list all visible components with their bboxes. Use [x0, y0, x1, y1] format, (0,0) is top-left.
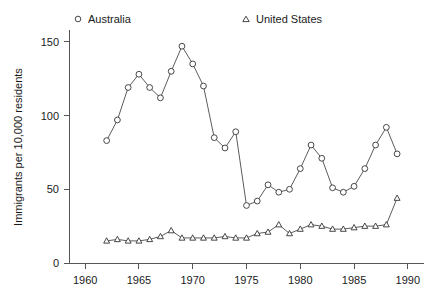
- data-point: [190, 61, 196, 67]
- axes: [69, 30, 424, 263]
- data-point: [104, 138, 110, 144]
- data-point: [168, 227, 174, 232]
- data-point: [244, 203, 250, 209]
- data-point: [276, 189, 282, 195]
- chart-container: Australia United States 050100150 196019…: [0, 0, 433, 295]
- y-tick-label: 100: [41, 110, 59, 122]
- data-point: [125, 85, 131, 91]
- data-point: [115, 117, 121, 123]
- data-point: [254, 198, 260, 204]
- y-tick-label: 150: [41, 36, 59, 48]
- x-tick-label: 1980: [288, 274, 312, 286]
- x-tick-label: 1960: [73, 274, 97, 286]
- data-point: [351, 183, 357, 189]
- chart-canvas: Australia United States 050100150 196019…: [0, 0, 433, 295]
- data-point: [276, 222, 282, 227]
- series-united-states: [104, 195, 400, 243]
- data-point: [158, 95, 164, 101]
- data-point: [114, 236, 120, 241]
- data-point: [157, 233, 163, 238]
- data-point: [308, 222, 314, 227]
- data-point: [179, 43, 185, 49]
- x-tick-label: 1990: [396, 274, 420, 286]
- y-axis-title: Immigrants per 10,000 residents: [12, 68, 24, 226]
- legend-marker-united-states-icon: [243, 16, 249, 21]
- x-tick-label: 1970: [180, 274, 204, 286]
- y-tick-label: 50: [47, 183, 59, 195]
- series-line: [107, 46, 397, 205]
- data-point: [383, 222, 389, 227]
- data-point: [222, 233, 228, 238]
- data-point: [308, 142, 314, 148]
- series-line: [107, 198, 397, 241]
- x-tick-label: 1965: [127, 274, 151, 286]
- legend-label-united-states: United States: [256, 13, 323, 25]
- data-point: [287, 186, 293, 192]
- data-point: [136, 71, 142, 77]
- series-australia: [104, 43, 400, 208]
- data-point: [168, 68, 174, 74]
- legend-marker-australia-icon: [75, 16, 81, 22]
- data-point: [383, 124, 389, 130]
- y-tick-label: 0: [53, 257, 59, 269]
- legend: Australia United States: [75, 13, 322, 25]
- data-point: [265, 182, 271, 188]
- data-point: [319, 155, 325, 161]
- x-tick-label: 1985: [342, 274, 366, 286]
- data-point: [233, 129, 239, 135]
- data-point: [222, 145, 228, 151]
- y-axis-ticks: 050100150: [41, 36, 69, 269]
- x-axis-ticks: 1960196519701975198019851990: [73, 263, 420, 286]
- data-point: [147, 85, 153, 91]
- data-point: [330, 185, 336, 191]
- series-layer: [104, 43, 400, 243]
- data-point: [211, 135, 217, 141]
- data-point: [340, 189, 346, 195]
- x-tick-label: 1975: [234, 274, 258, 286]
- data-point: [201, 83, 207, 89]
- data-point: [362, 166, 368, 172]
- data-point: [394, 195, 400, 200]
- legend-label-australia: Australia: [88, 13, 132, 25]
- data-point: [394, 151, 400, 157]
- data-point: [373, 142, 379, 148]
- data-point: [265, 229, 271, 234]
- data-point: [297, 166, 303, 172]
